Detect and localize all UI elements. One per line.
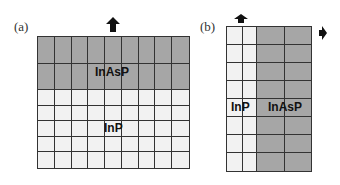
- grid-cell: [38, 64, 55, 90]
- grid-cell: [227, 153, 243, 171]
- grid-cell: [55, 90, 72, 106]
- grid-cell: [105, 106, 122, 122]
- grid-cell: [105, 37, 122, 64]
- grid-cell: [155, 137, 172, 153]
- grid-cell: [88, 37, 105, 64]
- grid-cell: [257, 135, 285, 153]
- grid-cell: [38, 106, 55, 122]
- grid-cell: [122, 90, 139, 106]
- grid-cell: [88, 106, 105, 122]
- arrow-up-icon: [234, 14, 248, 23]
- grid-cell: [155, 152, 172, 168]
- grid-cell: [88, 90, 105, 106]
- grid-cell: [38, 152, 55, 168]
- grid-cell: [55, 64, 72, 90]
- grid-cell: [243, 45, 257, 63]
- grid-cell: [122, 37, 139, 64]
- grid-cell: [88, 121, 105, 137]
- grid-cell: [72, 137, 89, 153]
- grid-cell: [227, 27, 243, 45]
- grid-cell: [257, 153, 285, 171]
- grid-cell: [55, 137, 72, 153]
- grid-cell: [257, 81, 285, 99]
- grid-cell: [257, 45, 285, 63]
- grid-cell: [172, 90, 189, 106]
- grid-cell: [122, 121, 139, 137]
- grid-cell: [139, 90, 156, 106]
- grid-cell: [172, 137, 189, 153]
- grid-cell: [55, 106, 72, 122]
- grid-cell: [72, 106, 89, 122]
- grid-cell: [55, 121, 72, 137]
- label-inp-a: InP: [104, 121, 123, 135]
- grid-cell: [38, 137, 55, 153]
- grid-cell: [227, 135, 243, 153]
- panel-b-label: (b): [200, 19, 215, 35]
- grid-cell: [105, 90, 122, 106]
- grid-cell: [285, 135, 311, 153]
- grid-cell: [72, 121, 89, 137]
- grid-cell: [139, 152, 156, 168]
- grid-cell: [243, 63, 257, 81]
- grid-cell: [122, 137, 139, 153]
- grid-cell: [139, 64, 156, 90]
- grid-cell: [172, 152, 189, 168]
- grid-cell: [139, 121, 156, 137]
- grid-cell: [257, 63, 285, 81]
- grid-a: [37, 36, 190, 169]
- grid-cell: [122, 152, 139, 168]
- grid-cell: [155, 37, 172, 64]
- grid-cell: [105, 152, 122, 168]
- grid-cell: [139, 137, 156, 153]
- grid-cell: [139, 106, 156, 122]
- grid-cell: [285, 27, 311, 45]
- arrow-right-icon: [319, 26, 327, 40]
- label-inasp-a: InAsP: [95, 65, 129, 79]
- grid-b: [226, 26, 312, 172]
- grid-cell: [72, 37, 89, 64]
- label-inp-b: InP: [231, 100, 250, 114]
- grid-cell: [139, 37, 156, 64]
- grid-cell: [172, 64, 189, 90]
- grid-cell: [155, 106, 172, 122]
- grid-cell: [55, 37, 72, 64]
- grid-cell: [72, 90, 89, 106]
- grid-cell: [88, 137, 105, 153]
- grid-cell: [38, 37, 55, 64]
- grid-cell: [285, 117, 311, 135]
- grid-cell: [122, 106, 139, 122]
- grid-cell: [285, 45, 311, 63]
- grid-cell: [227, 63, 243, 81]
- grid-cell: [227, 81, 243, 99]
- grid-cell: [38, 121, 55, 137]
- grid-cell: [243, 135, 257, 153]
- grid-cell: [72, 64, 89, 90]
- grid-cell: [72, 152, 89, 168]
- grid-cell: [227, 117, 243, 135]
- grid-cell: [285, 63, 311, 81]
- panel-a-label: (a): [14, 19, 28, 35]
- grid-cell: [257, 117, 285, 135]
- label-inasp-b: InAsP: [268, 100, 302, 114]
- grid-cell: [172, 121, 189, 137]
- grid-cell: [243, 81, 257, 99]
- grid-cell: [243, 27, 257, 45]
- grid-cell: [55, 152, 72, 168]
- grid-cell: [88, 152, 105, 168]
- grid-cell: [155, 90, 172, 106]
- grid-cell: [155, 64, 172, 90]
- grid-cell: [172, 37, 189, 64]
- grid-cell: [257, 27, 285, 45]
- grid-cell: [38, 90, 55, 106]
- grid-cell: [105, 137, 122, 153]
- grid-cell: [155, 121, 172, 137]
- grid-cell: [285, 81, 311, 99]
- grid-cell: [243, 117, 257, 135]
- grid-cell: [285, 153, 311, 171]
- grid-cell: [227, 45, 243, 63]
- arrow-up-icon: [106, 17, 120, 32]
- grid-cell: [243, 153, 257, 171]
- grid-cell: [172, 106, 189, 122]
